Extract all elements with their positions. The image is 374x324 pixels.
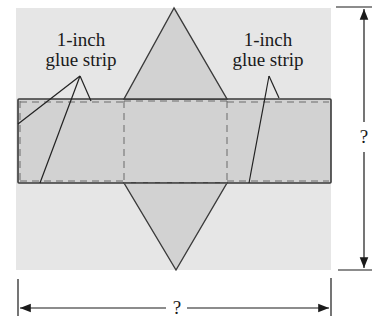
right-glue-strip-line1: 1-inch (221, 30, 315, 50)
left-glue-strip-label: 1-inch glue strip (34, 30, 128, 70)
rectangle-band (18, 99, 331, 183)
right-glue-strip-label: 1-inch glue strip (221, 30, 315, 70)
left-glue-strip-line2: glue strip (34, 50, 128, 70)
net-diagram: 1-inch glue strip 1-inch glue strip ? ? (0, 0, 374, 324)
right-glue-strip-line2: glue strip (221, 50, 315, 70)
width-unknown-label: ? (169, 298, 185, 318)
height-unknown-label: ? (357, 127, 371, 147)
left-glue-strip-line1: 1-inch (34, 30, 128, 50)
